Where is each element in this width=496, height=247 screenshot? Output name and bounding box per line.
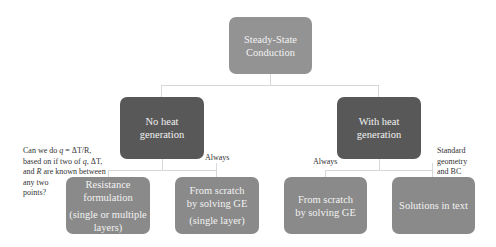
edge-label-standard-geometry: Standard geometry and BC — [437, 146, 467, 178]
label-text: any two — [23, 178, 133, 189]
node-sublabel: layers) — [94, 221, 123, 234]
node-label: From scratch — [189, 184, 244, 197]
node-from-scratch-single-layer: From scratch by solving GE (single layer… — [175, 177, 259, 234]
connector-to-scratch-single — [216, 163, 217, 177]
node-label: by solving GE — [187, 197, 248, 210]
node-with-heat-generation: With heat generation — [337, 97, 421, 159]
node-label: generation — [140, 128, 184, 141]
connector-to-with-heat — [378, 85, 379, 97]
label-text: and — [23, 167, 37, 176]
connector-with-heat-down — [379, 159, 380, 170]
label-text: based on if two of — [23, 157, 83, 166]
edge-label-always-right: Always — [313, 157, 337, 168]
label-text: = ΔT/R, — [63, 146, 91, 155]
node-label: by solving GE — [295, 206, 356, 219]
node-solutions-in-text: Solutions in text — [392, 177, 475, 234]
edge-label-always-left: Always — [205, 153, 229, 164]
connector-to-scratch — [325, 170, 326, 177]
connector-root-down — [270, 73, 271, 85]
node-sublabel: (single layer) — [189, 214, 245, 227]
label-text: geometry — [437, 157, 467, 168]
connector-to-solutions — [432, 163, 433, 177]
node-label: No heat — [146, 115, 179, 128]
label-text: , ΔT, — [87, 157, 102, 166]
connector-no-heat-down — [162, 159, 163, 170]
node-steady-state-conduction: Steady-State Conduction — [229, 17, 312, 74]
node-sublabel: (single or multiple — [69, 208, 147, 221]
label-text: are known between — [41, 167, 105, 176]
edge-label-resistance-question: Can we do q = ΔT/R, based on if two of q… — [23, 146, 133, 199]
connector-to-no-heat — [161, 85, 162, 97]
label-text: and BC — [437, 167, 467, 178]
node-label: From scratch — [298, 193, 353, 206]
node-label: Steady-State — [244, 33, 297, 46]
node-label: With heat — [359, 115, 400, 128]
connector-with-heat-horizontal — [325, 170, 433, 171]
node-label: generation — [357, 128, 401, 141]
label-text: Standard — [437, 146, 467, 157]
connector-level1-horizontal — [161, 85, 379, 86]
node-from-scratch: From scratch by solving GE — [284, 177, 367, 234]
node-label: Conduction — [246, 46, 295, 59]
node-label: Solutions in text — [399, 199, 468, 212]
label-text: Can we do — [23, 146, 59, 155]
label-text: points? — [23, 188, 133, 199]
